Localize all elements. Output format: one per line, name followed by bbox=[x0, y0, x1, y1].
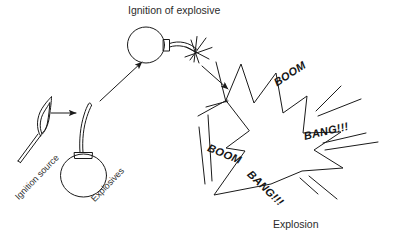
diagram-canvas: Ignition of explosive Ignition source Ex… bbox=[0, 0, 395, 241]
lit-match-icon bbox=[18, 97, 52, 163]
arrow-bomb-to-ignition bbox=[100, 62, 142, 101]
diagram-artwork bbox=[0, 0, 395, 241]
bomb-icon bbox=[61, 103, 107, 197]
caption-explosion: Explosion bbox=[273, 219, 319, 230]
explosion-speed-lines bbox=[198, 62, 378, 199]
bomb-with-lit-fuse-icon bbox=[128, 27, 213, 63]
arrow-ignition-to-explosion bbox=[202, 66, 228, 89]
page-title: Ignition of explosive bbox=[128, 5, 220, 16]
fuse-spark-icon bbox=[185, 37, 212, 64]
